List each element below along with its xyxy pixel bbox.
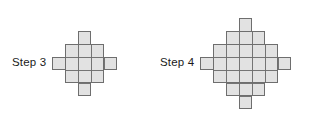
gridline-horizontal xyxy=(65,70,104,71)
band-inner-block-5 xyxy=(213,44,278,83)
gridline-vertical xyxy=(226,44,227,83)
gridline-horizontal xyxy=(78,83,91,84)
gridline-horizontal xyxy=(239,96,252,97)
figure-step-4: Step 4 xyxy=(155,0,315,126)
gridline-horizontal xyxy=(239,31,252,32)
gridline-horizontal xyxy=(213,70,278,71)
gridline-vertical xyxy=(78,44,79,83)
gridline-vertical xyxy=(104,57,105,70)
gridline-vertical xyxy=(278,57,279,70)
gridline-vertical xyxy=(213,57,214,70)
band-center-block xyxy=(65,44,104,83)
step-3-diagram xyxy=(52,31,117,96)
step-3-label: Step 3 xyxy=(12,57,46,69)
gridline-vertical xyxy=(265,44,266,83)
gridline-vertical xyxy=(65,57,66,70)
gridline-horizontal xyxy=(78,44,91,45)
gridline-vertical xyxy=(239,31,240,96)
step-4-label: Step 4 xyxy=(160,57,194,69)
gridline-horizontal xyxy=(226,83,265,84)
gridline-horizontal xyxy=(226,44,265,45)
figure-step-3: Step 3 xyxy=(0,0,155,126)
gridline-horizontal xyxy=(213,57,278,58)
gridline-vertical xyxy=(252,31,253,96)
figure-canvas: Step 3 Step 4 xyxy=(0,0,315,126)
gridline-horizontal xyxy=(65,57,104,58)
gridline-vertical xyxy=(91,44,92,83)
step-4-diagram xyxy=(200,18,291,109)
